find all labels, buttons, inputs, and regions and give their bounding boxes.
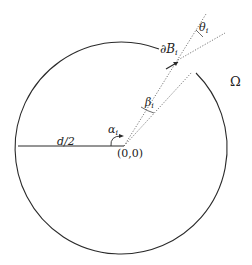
origin-label: (0,0): [117, 148, 143, 159]
ray-2: [124, 72, 192, 146]
ray-1: [124, 14, 206, 146]
boundary-label: ∂Bi: [160, 43, 178, 57]
beta-label: βi: [145, 97, 154, 110]
theta-label: θi: [199, 22, 208, 35]
ray-3: [178, 33, 225, 60]
radius-label: d/2: [57, 136, 75, 147]
diagram-graphics: [0, 0, 252, 265]
alpha-arrowhead: [119, 134, 124, 138]
alpha-label: αi: [108, 124, 118, 137]
domain-label: Ω: [230, 75, 241, 88]
diagram-canvas: d/2 (0,0) αi βi θi ∂Bi Ω: [0, 0, 252, 265]
